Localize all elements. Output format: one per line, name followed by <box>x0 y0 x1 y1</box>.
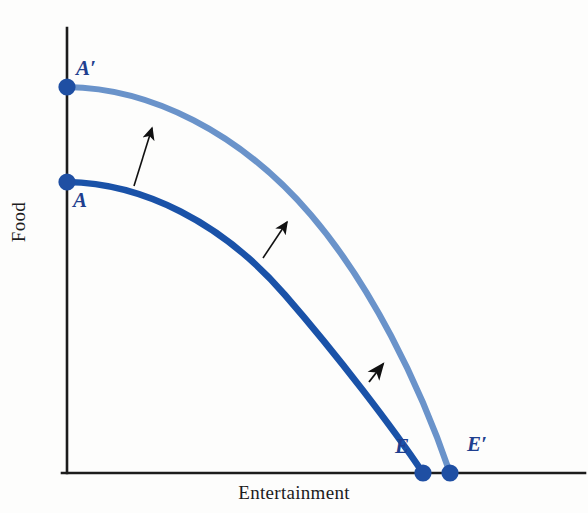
point-label-e: E <box>395 434 409 459</box>
point-a-prime <box>58 78 75 95</box>
point-e-prime <box>441 464 458 481</box>
y-axis-label-container: Food <box>8 172 32 272</box>
ppf-curve-shifted <box>67 87 450 473</box>
shift-arrow-upper <box>134 128 152 186</box>
axis-lines <box>62 28 585 473</box>
y-axis-label: Food <box>8 202 30 242</box>
point-label-a-prime: A′ <box>76 56 96 81</box>
point-label-a: A <box>73 188 87 213</box>
ppf-curve-initial <box>67 182 423 473</box>
ppf-chart-figure: A′ A E E′ Entertainment Food <box>0 0 588 513</box>
endpoint-markers <box>58 78 458 481</box>
shift-arrow-lower <box>369 364 383 382</box>
x-axis-label: Entertainment <box>0 482 588 504</box>
point-e <box>414 464 431 481</box>
shift-arrow-middle <box>263 222 287 258</box>
point-label-e-prime: E′ <box>467 432 487 457</box>
